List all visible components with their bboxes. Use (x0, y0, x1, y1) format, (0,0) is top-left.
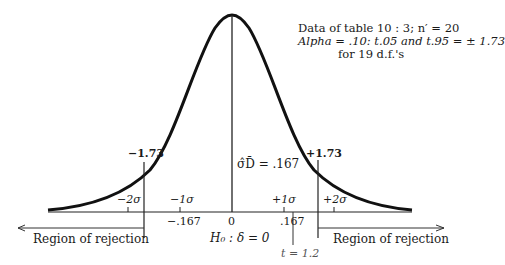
region-right-label: Region of rejection (333, 233, 449, 245)
region-left-label: Region of rejection (33, 233, 149, 245)
tick-plus-1-sigma: +1σ (272, 194, 296, 205)
tick-value-minus-167: −.167 (167, 216, 201, 227)
critical-right-label: +1.73 (306, 148, 342, 159)
sigma-d-label: σ̂D̄ = .167 (237, 158, 299, 170)
tick-minus-2-sigma: −2σ (117, 194, 141, 205)
t-observed-label: t = 1.2 (281, 248, 319, 259)
tick-minus-1-sigma: −1σ (170, 194, 194, 205)
critical-left-label: −1.73 (128, 148, 164, 159)
null-hypothesis-label: H₀ : δ = 0 (210, 232, 270, 244)
data-note: Data of table 10 : 3; n′ = 20 Alpha = .1… (298, 22, 505, 61)
tick-value-167: .167 (280, 216, 305, 227)
tick-plus-2-sigma: +2σ (323, 194, 347, 205)
tick-value-zero: 0 (228, 216, 235, 227)
note-line-3: for 19 d.f.'s (298, 48, 505, 61)
